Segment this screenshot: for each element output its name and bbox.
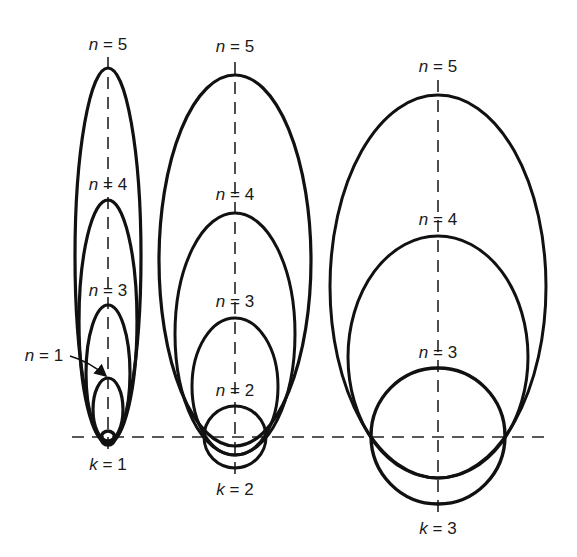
orbit-label-n: n = 3 [89, 281, 127, 300]
orbit-group-k1: n = 5n = 4n = 3k = 1n = 1 [25, 35, 141, 474]
orbit-label-n: n = 5 [89, 35, 127, 54]
bohr-sommerfeld-orbits-diagram: n = 5n = 4n = 3k = 1n = 1n = 5n = 4n = 3… [0, 0, 577, 557]
orbit-label-n: n = 4 [419, 210, 457, 229]
arrow-label-n1: n = 1 [25, 346, 63, 365]
k-label: k = 2 [216, 480, 253, 499]
orbit-label-n: n = 2 [216, 381, 254, 400]
k-label: k = 3 [419, 519, 456, 538]
orbit-label-n: n = 4 [216, 185, 254, 204]
orbit-label-n: n = 5 [216, 37, 254, 56]
orbit-label-n: n = 5 [419, 57, 457, 76]
orbit-group-k2: n = 5n = 4n = 3n = 2k = 2 [159, 37, 311, 499]
orbit-label-n: n = 3 [216, 292, 254, 311]
orbit-group-k3: n = 5n = 4n = 3k = 3 [330, 57, 546, 538]
orbit-label-n: n = 4 [89, 175, 127, 194]
orbit-label-n: n = 3 [419, 343, 457, 362]
k-label: k = 1 [89, 455, 126, 474]
